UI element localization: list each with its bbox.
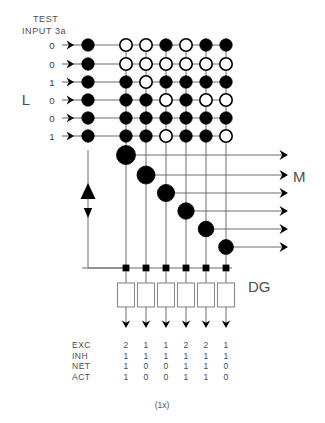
layer-label-M: M <box>293 168 306 185</box>
DG-unit-box[interactable] <box>158 283 175 307</box>
table-row: INH111111 <box>72 351 229 361</box>
DG-unit <box>198 265 215 328</box>
feedback-up-triangle-icon <box>81 183 96 199</box>
matrix-node-inactive[interactable] <box>140 39 152 51</box>
matrix-node-inactive[interactable] <box>120 39 132 51</box>
matrix-node-active[interactable] <box>200 39 212 51</box>
input-bit-value: 1 <box>49 131 54 142</box>
table-cell-value: 1 <box>183 361 188 371</box>
matrix-node-inactive[interactable] <box>220 58 232 70</box>
DG-unit-box[interactable] <box>218 283 235 307</box>
table-row-label: EXC <box>72 340 91 350</box>
matrix-node-active[interactable] <box>180 76 192 88</box>
DG-bus-node[interactable] <box>203 265 210 272</box>
table-cell-value: 0 <box>223 372 228 382</box>
table-cell-value: 1 <box>183 372 188 382</box>
feedback-loop <box>81 150 127 268</box>
matrix-node-inactive[interactable] <box>220 130 232 142</box>
L-input-node[interactable] <box>82 76 94 88</box>
DG-bus-node[interactable] <box>143 265 150 272</box>
matrix-node-active[interactable] <box>180 130 192 142</box>
matrix-node-active[interactable] <box>220 76 232 88</box>
table-cell-value: 1 <box>203 372 208 382</box>
table-cell-value: 1 <box>123 361 128 371</box>
L-input-node[interactable] <box>82 130 94 142</box>
M-unit-node[interactable] <box>219 240 234 255</box>
L-input-node[interactable] <box>82 39 94 51</box>
DG-unit <box>218 265 235 328</box>
diagram-canvas: TESTINPUT 3aLMDG(1x)001001EXC211221INH11… <box>0 0 325 423</box>
table-cell-value: 1 <box>163 351 168 361</box>
M-unit <box>198 221 288 237</box>
DG-bus-node[interactable] <box>183 265 190 272</box>
table-cell-value: 1 <box>203 351 208 361</box>
matrix-node-inactive[interactable] <box>200 58 212 70</box>
matrix-node-active[interactable] <box>180 112 192 124</box>
layer-label-M-group: M <box>293 168 306 185</box>
table-cell-value: 1 <box>143 340 148 350</box>
table-cell-value: 1 <box>123 351 128 361</box>
matrix-node-active[interactable] <box>120 112 132 124</box>
matrix-node-inactive[interactable] <box>180 39 192 51</box>
L-input-node[interactable] <box>82 58 94 70</box>
table-row: ACT100110 <box>72 372 229 382</box>
matrix-node-active[interactable] <box>120 130 132 142</box>
matrix-node-active[interactable] <box>160 39 172 51</box>
matrix-node-active[interactable] <box>200 76 212 88</box>
matrix-node-active[interactable] <box>220 112 232 124</box>
table-cell-value: 0 <box>163 372 168 382</box>
matrix-node-active[interactable] <box>140 130 152 142</box>
DG-bus-node[interactable] <box>163 265 170 272</box>
layer-label-L-group: L <box>22 91 30 108</box>
M-unit <box>219 240 288 255</box>
M-unit-node[interactable] <box>117 146 136 165</box>
M-unit-node[interactable] <box>137 166 155 184</box>
table-cell-value: 2 <box>183 340 188 350</box>
neural-network-diagram: TESTINPUT 3aLMDG(1x)001001EXC211221INH11… <box>0 0 325 423</box>
matrix-node-inactive[interactable] <box>200 94 212 106</box>
matrix-node-inactive[interactable] <box>120 58 132 70</box>
matrix-node-active[interactable] <box>180 94 192 106</box>
DG-unit-box[interactable] <box>138 283 155 307</box>
matrix-node-active[interactable] <box>160 76 172 88</box>
matrix-node-inactive[interactable] <box>220 94 232 106</box>
matrix-node-active[interactable] <box>120 76 132 88</box>
layer-label-L: L <box>22 91 30 108</box>
matrix-node-active[interactable] <box>220 39 232 51</box>
title-line-2: INPUT 3a <box>22 26 66 36</box>
table-cell-value: 0 <box>223 361 228 371</box>
matrix-node-inactive[interactable] <box>140 76 152 88</box>
M-unit-node[interactable] <box>198 221 214 237</box>
table-cell-value: 1 <box>223 351 228 361</box>
M-unit <box>178 203 288 219</box>
M-unit-node[interactable] <box>157 184 174 201</box>
table-cell-value: 1 <box>223 340 228 350</box>
DG-bus-node[interactable] <box>223 265 230 272</box>
DG-unit <box>178 265 195 328</box>
DG-unit <box>118 265 135 328</box>
M-unit-node[interactable] <box>178 203 194 219</box>
DG-unit-box[interactable] <box>178 283 195 307</box>
matrix-node-inactive[interactable] <box>180 58 192 70</box>
DG-unit-box[interactable] <box>198 283 215 307</box>
matrix-node-inactive[interactable] <box>160 130 172 142</box>
input-bit-value: 0 <box>49 40 54 51</box>
matrix-node-active[interactable] <box>120 94 132 106</box>
matrix-node-active[interactable] <box>200 130 212 142</box>
matrix-node-inactive[interactable] <box>160 58 172 70</box>
L-input-node[interactable] <box>82 94 94 106</box>
matrix-node-active[interactable] <box>140 94 152 106</box>
table-cell-value: 0 <box>143 361 148 371</box>
matrix-node-active[interactable] <box>140 112 152 124</box>
L-input-node[interactable] <box>82 112 94 124</box>
DG-bus-node[interactable] <box>123 265 130 272</box>
DG-unit-box[interactable] <box>118 283 135 307</box>
matrix-node-active[interactable] <box>200 112 212 124</box>
matrix-node-active[interactable] <box>160 112 172 124</box>
matrix-node-inactive[interactable] <box>160 94 172 106</box>
layer-label-DG-group: DG <box>248 278 271 295</box>
DG-unit <box>138 265 155 328</box>
matrix-node-inactive[interactable] <box>140 58 152 70</box>
matrix-nodes <box>120 39 232 142</box>
table-cell-value: 0 <box>163 361 168 371</box>
